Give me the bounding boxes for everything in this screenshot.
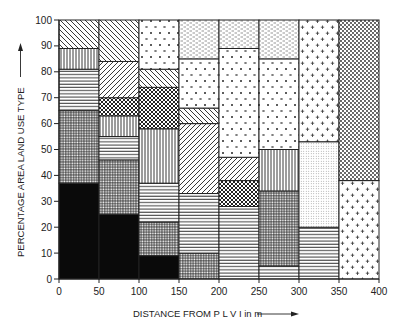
segment-diag-forward bbox=[99, 61, 139, 97]
segment-solid-black bbox=[59, 183, 99, 279]
x-tick-label: 400 bbox=[371, 286, 388, 297]
column-50-100 bbox=[99, 20, 139, 279]
segment-x-marks bbox=[139, 20, 179, 69]
column-100-150 bbox=[139, 20, 179, 279]
segment-horizontal bbox=[179, 194, 219, 254]
y-tick-label: 50 bbox=[41, 144, 53, 155]
segment-solid-black bbox=[99, 214, 139, 279]
segment-grid bbox=[139, 222, 179, 256]
y-tick-label: 100 bbox=[35, 15, 52, 26]
segment-grid bbox=[99, 160, 139, 214]
x-tick-label: 350 bbox=[331, 286, 348, 297]
plot-area bbox=[59, 20, 379, 279]
column-300-350 bbox=[299, 20, 339, 279]
segment-solid-black bbox=[139, 256, 179, 279]
x-tick-label: 250 bbox=[251, 286, 268, 297]
column-200-250 bbox=[219, 20, 259, 279]
column-150-200 bbox=[179, 20, 219, 279]
segment-diag-back bbox=[179, 108, 219, 124]
segment-vertical bbox=[259, 150, 299, 191]
segment-crosshatch bbox=[219, 181, 259, 207]
segment-fine-dots bbox=[299, 142, 339, 227]
segment-horizontal bbox=[299, 227, 339, 279]
segment-dashes bbox=[179, 20, 219, 59]
segment-horizontal bbox=[259, 266, 299, 279]
y-tick-label: 90 bbox=[41, 40, 53, 51]
x-axis-title: DISTANCE FROM P L V I in m bbox=[133, 308, 262, 319]
segment-plus-marks bbox=[339, 181, 379, 279]
x-tick-label: 150 bbox=[171, 286, 188, 297]
segment-vertical bbox=[139, 129, 179, 183]
y-tick-label: 70 bbox=[41, 92, 53, 103]
y-tick-label: 0 bbox=[46, 274, 52, 285]
x-axis-ticks: 050100150200250300350400 bbox=[56, 279, 388, 297]
y-axis-arrow-icon bbox=[18, 43, 23, 77]
segment-diag-back bbox=[99, 20, 139, 61]
segment-vertical bbox=[59, 48, 99, 69]
x-tick-label: 50 bbox=[93, 286, 105, 297]
segment-crosshatch bbox=[139, 87, 179, 128]
segment-grid bbox=[179, 253, 219, 279]
segment-crosshatch bbox=[99, 98, 139, 116]
segment-diag-back bbox=[139, 69, 179, 87]
x-tick-label: 0 bbox=[56, 286, 62, 297]
segment-horizontal bbox=[219, 206, 259, 279]
y-tick-label: 20 bbox=[41, 222, 53, 233]
y-tick-label: 10 bbox=[41, 248, 53, 259]
segment-dashes bbox=[259, 20, 299, 59]
y-axis-title: PERCENTAGE AREA LAND USE TYPE bbox=[15, 87, 26, 257]
x-axis-arrow-icon bbox=[257, 312, 299, 317]
column-350-400 bbox=[339, 20, 379, 279]
segment-horizontal bbox=[59, 69, 99, 110]
x-tick-label: 200 bbox=[211, 286, 228, 297]
segment-horizontal bbox=[139, 183, 179, 222]
segment-diag-back bbox=[59, 20, 99, 48]
stacked-land-use-chart: 050100150200250300350400 010203040506070… bbox=[0, 0, 398, 325]
y-axis-ticks: 0102030405060708090100 bbox=[35, 15, 59, 285]
segment-dashes bbox=[219, 20, 259, 48]
segment-vertical bbox=[99, 116, 139, 137]
y-tick-label: 30 bbox=[41, 196, 53, 207]
segment-grid bbox=[59, 111, 99, 184]
y-tick-label: 80 bbox=[41, 66, 53, 77]
segment-coarse-dots bbox=[339, 20, 379, 181]
segment-plus-marks bbox=[299, 20, 339, 142]
segment-x-marks bbox=[179, 59, 219, 108]
segment-horizontal bbox=[99, 137, 139, 160]
x-tick-label: 100 bbox=[131, 286, 148, 297]
segment-diag-forward bbox=[219, 157, 259, 180]
x-tick-label: 300 bbox=[291, 286, 308, 297]
segment-diag-forward bbox=[179, 124, 219, 194]
segment-x-marks bbox=[219, 48, 259, 157]
segment-grid bbox=[259, 191, 299, 266]
column-0-50 bbox=[59, 20, 99, 279]
y-tick-label: 60 bbox=[41, 118, 53, 129]
segment-x-marks bbox=[259, 59, 299, 150]
y-tick-label: 40 bbox=[41, 170, 53, 181]
column-250-300 bbox=[259, 20, 299, 279]
